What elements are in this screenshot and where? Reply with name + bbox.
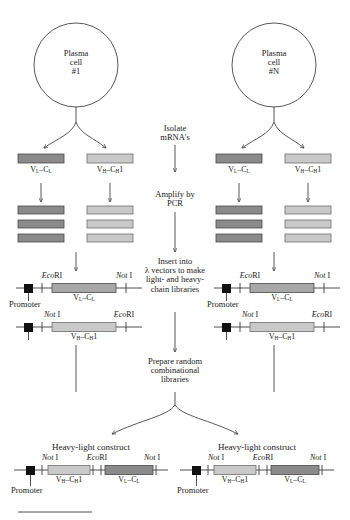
- segment-label-left-1: VL–CL: [73, 294, 94, 303]
- flow-step-prepare: Prepare random combinational libraries: [148, 357, 202, 385]
- final-left-site-2: EcoRI: [87, 454, 107, 463]
- mrna-label-left-heavy: VH–CH1: [97, 166, 124, 175]
- final-construct-right-title: Heavy-light construct: [218, 443, 296, 453]
- figure-canvas: Plasma cell #1 Plasma cell #N Isolate mR…: [0, 0, 350, 520]
- flow-step-amplify: Amplify by PCR: [155, 190, 194, 208]
- final-right-segment-1: VH–CH1: [222, 476, 249, 485]
- final-right-promoter: Promoter: [177, 486, 209, 495]
- final-left-site-1: Not I: [42, 454, 58, 463]
- site-label-eco-left-2: EcoRI: [114, 311, 134, 320]
- final-construct-left-title: Heavy-light construct: [52, 443, 130, 453]
- site-label-not-left-1: Not I: [116, 272, 132, 281]
- flow-isolate-line2: mRNA's: [160, 133, 189, 142]
- mrna-label-left-light: VL–CL: [30, 166, 51, 175]
- plasma-cell-right-label: Plasma cell #N: [262, 49, 287, 77]
- segment-label-left-2: VH–CH1: [71, 333, 98, 342]
- final-left-segment-1: VH–CH1: [56, 476, 83, 485]
- flow-step-isolate: Isolate mRNA's: [160, 124, 189, 142]
- plasma-cell-left-line3: #1: [64, 67, 89, 76]
- final-left-site-3: Not I: [144, 454, 160, 463]
- final-right-site-2: EcoRI: [253, 454, 273, 463]
- site-label-eco-right-1: EcoRI: [240, 272, 260, 281]
- promoter-label-left-1: Promoter: [9, 300, 41, 309]
- final-right-segment-2: VL–CL: [284, 476, 305, 485]
- site-label-not-right-2: Not I: [242, 311, 258, 320]
- final-construct-right: [180, 465, 334, 486]
- flow-amplify-line2: PCR: [155, 199, 194, 208]
- flow-insert-line4: chain libraries: [145, 285, 205, 294]
- segment-label-right-1: VL–CL: [271, 294, 292, 303]
- site-label-eco-right-2: EcoRI: [312, 311, 332, 320]
- flow-step-insert: Insert into λ vectors to make light- and…: [145, 257, 205, 294]
- promoter-label-right-1: Promoter: [207, 300, 239, 309]
- mrna-label-right-heavy: VH–CH1: [295, 166, 322, 175]
- mrna-label-right-light: VL–CL: [228, 166, 249, 175]
- final-right-site-3: Not I: [310, 454, 326, 463]
- site-label-not-left-2: Not I: [44, 311, 60, 320]
- plasma-cell-left-label: Plasma cell #1: [64, 49, 89, 77]
- site-label-not-right-1: Not I: [314, 272, 330, 281]
- pcr-amplified-bars-group: [18, 206, 331, 242]
- flow-prepare-line3: libraries: [148, 375, 202, 384]
- mrna-bars-group: [18, 154, 331, 163]
- final-construct-left: [14, 465, 168, 486]
- final-left-promoter: Promoter: [11, 486, 43, 495]
- final-left-segment-2: VL–CL: [118, 476, 139, 485]
- plasma-cell-right-line3: #N: [262, 67, 287, 76]
- final-right-site-1: Not I: [208, 454, 224, 463]
- segment-label-right-2: VH–CH1: [269, 333, 296, 342]
- site-label-eco-left-1: EcoRI: [42, 272, 62, 281]
